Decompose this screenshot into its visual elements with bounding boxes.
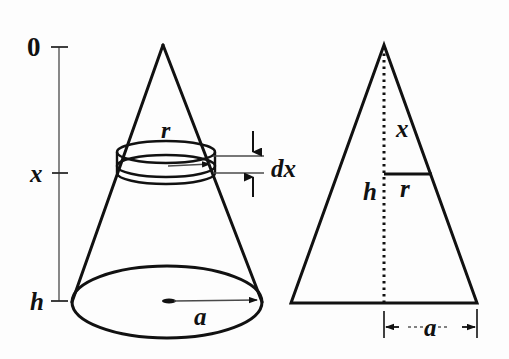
slab-radius-arrow [168,164,210,166]
cone-base-radius-arrow [174,300,257,301]
axis-label-h: h [30,288,44,315]
slab-top-ellipse [117,141,215,163]
triangle-group: x r h a [291,45,477,341]
cone-disc-slab [117,141,215,184]
label-dx: dx [271,155,296,182]
cone-integration-diagram: 0 x h r a [0,0,509,359]
depth-axis-group: 0 x h [27,32,68,315]
cone-label-a: a [194,303,207,330]
triangle-label-r: r [400,175,410,202]
triangle-label-h: h [363,178,377,205]
cone-group: r a [72,45,262,338]
slab-mid-ellipse [117,155,215,177]
triangle-label-a: a [424,314,437,341]
axis-label-zero: 0 [27,32,41,62]
dx-dimension-group: dx [213,131,296,197]
cone-label-r: r [161,117,171,143]
axis-label-x: x [29,160,43,187]
cone-base-center-dot [162,298,176,303]
triangle-label-x: x [395,115,409,142]
figure-canvas: 0 x h r a [0,0,509,359]
